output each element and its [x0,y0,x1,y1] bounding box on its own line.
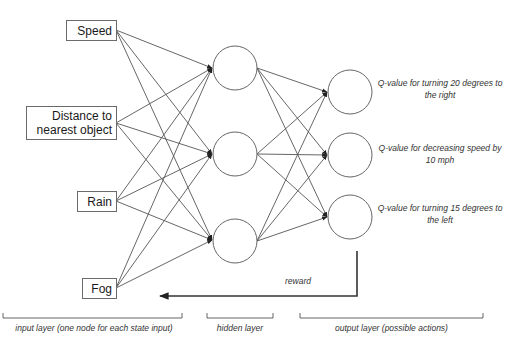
hidden-nodes [213,46,257,263]
output-layer-bracket [300,313,483,318]
q-label-slow-down: Q-value for decreasing speed by 10 mph [375,142,505,166]
input-node-fog: Fog [82,278,117,299]
layer-brackets [3,313,483,318]
output-nodes [328,70,372,239]
q-label-turn-left: Q-value for turning 15 degrees to the le… [375,202,505,226]
hidden-output-edges [257,68,327,241]
hidden-layer-bracket [207,313,273,318]
network-edges [0,0,505,352]
output-node-turn-left [328,195,372,239]
input-layer-label: input layer (one node for each state inp… [6,323,182,333]
input-label-speed: Speed [77,24,112,38]
neural-network-diagram: Speed Distance to nearest object Rain Fo… [0,0,505,352]
input-layer-bracket [3,313,182,318]
input-label-fog: Fog [91,282,112,296]
input-label-distance: Distance to nearest object [31,109,112,137]
input-node-distance: Distance to nearest object [26,106,117,140]
output-node-slow-down [328,133,372,177]
hidden-layer-label: hidden layer [207,323,273,333]
reward-feedback-arrow [160,251,357,296]
input-label-rain: Rain [87,195,112,209]
output-layer-label: output layer (possible actions) [300,323,483,333]
input-node-rain: Rain [77,191,117,212]
input-hidden-edges [116,30,212,288]
hidden-node-2 [213,132,257,176]
hidden-node-3 [213,219,257,263]
output-node-turn-right [328,70,372,114]
hidden-node-1 [213,46,257,90]
input-node-speed: Speed [66,20,117,41]
q-label-turn-right: Q-value for turning 20 degrees to the ri… [375,77,505,101]
reward-label: reward [285,276,311,286]
